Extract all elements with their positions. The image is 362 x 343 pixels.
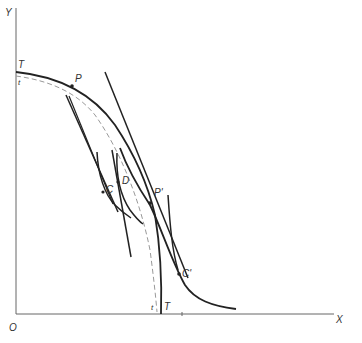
label-P: P [75,73,82,84]
involute-curve [120,148,236,309]
point-p [70,84,74,88]
diagram-canvas: Y X O T t P C D P' C' t T [0,0,362,343]
label-C-prime: C' [182,268,192,279]
label-t-bottom: t [151,303,154,312]
origin-label: O [9,322,17,333]
point-d [116,180,119,183]
y-axis-label: Y [5,7,13,18]
x-axis-label: X [335,314,343,325]
label-C: C [106,184,114,195]
point-p-prime [148,201,152,205]
point-c [101,190,104,193]
label-T-bottom: T [164,301,171,312]
label-P-prime: P' [154,187,164,198]
dashed-curve [16,76,157,312]
label-T-top: T [18,59,25,70]
label-D: D [122,175,129,186]
point-c-prime [177,272,181,276]
label-t-top: t [18,78,21,87]
